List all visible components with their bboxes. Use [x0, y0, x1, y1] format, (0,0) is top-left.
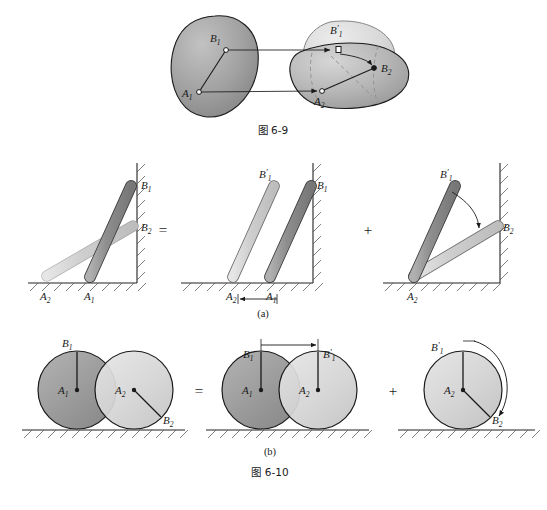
point-b1-A1 [75, 388, 79, 392]
ground-hatching-b1 [24, 430, 188, 438]
point-b2-A1 [259, 388, 263, 392]
full-figure-canvas: B1 A1 B′1 B2 A2 图 6-9 [0, 0, 547, 510]
caption-figure-6-10: 图 6-10 [251, 466, 288, 478]
caption-figure-6-9: 图 6-9 [258, 124, 289, 136]
label-a1-B1: B1 [141, 179, 151, 194]
label-a1-B2: B2 [141, 221, 152, 236]
operator-equals-b: = [195, 383, 203, 399]
label-a2-B1: B1 [317, 179, 327, 194]
point-A2 [320, 89, 325, 94]
label-a3-A2: A2 [406, 290, 418, 305]
figure-6-9: B1 A1 B′1 B2 A2 图 6-9 [171, 16, 409, 136]
translation-distance-arrow-b [261, 339, 318, 351]
label-b1-B1: B1 [62, 337, 72, 352]
part-label-b: (b) [264, 446, 277, 458]
label-a3-B2: B2 [503, 221, 514, 236]
part-label-a: (a) [257, 308, 269, 320]
ground-hatching-2 [183, 283, 323, 291]
panel-a-combined: B1 B2 A2 A1 [28, 163, 152, 305]
label-b3-B2: B2 [492, 414, 503, 429]
label-a3-B1-prime: B′1 [440, 167, 452, 183]
point-b1-A2 [132, 388, 136, 392]
ground-hatching-b3 [400, 430, 540, 438]
point-B1 [224, 48, 229, 53]
label-a2-A2: A2 [225, 290, 237, 305]
rod-light-translation [233, 186, 274, 277]
rod-dark-translation [270, 186, 311, 277]
operator-plus-b: + [389, 383, 397, 399]
initial-position-blob [171, 16, 258, 117]
panel-b-rotation: B′1 A2 B2 [398, 340, 540, 438]
ground-hatching-b2 [208, 430, 372, 438]
point-b2-A2 [316, 388, 320, 392]
label-a1-A2: A2 [39, 290, 51, 305]
label-a2-B1-prime: B′1 [259, 167, 271, 183]
point-A1 [197, 90, 202, 95]
label-b3-B1-prime: B′1 [431, 340, 443, 356]
panel-b-combined: B1 A1 A2 B2 [22, 337, 188, 438]
panel-b-translation: B1 B′1 A1 A2 [206, 339, 372, 438]
operator-equals-a: = [159, 222, 167, 238]
figure-page: B1 A1 B′1 B2 A2 图 6-9 [0, 0, 547, 510]
ground-hatching-3 [385, 283, 501, 291]
label-a2-A1: A1 [265, 290, 276, 305]
point-B1-prime [336, 47, 341, 53]
figure-6-10-part-b: B1 A1 A2 B2 = [22, 337, 540, 478]
label-a1-A1: A1 [83, 290, 94, 305]
figure-6-10-part-a: B1 B2 A2 A1 = [28, 163, 514, 320]
panel-a-rotation: B′1 B2 A2 [383, 163, 514, 305]
point-B2 [372, 66, 377, 71]
panel-a-translation: B′1 B1 A2 A1 [181, 163, 327, 305]
operator-plus-a: + [364, 222, 372, 238]
label-b1-B2: B2 [163, 414, 174, 429]
point-b3-A2 [461, 388, 465, 392]
